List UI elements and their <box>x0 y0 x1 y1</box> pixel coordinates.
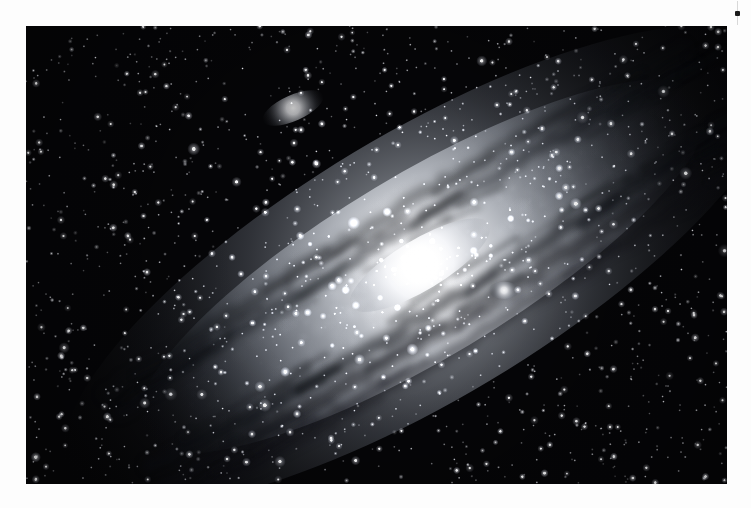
photo-viewer-page <box>0 0 751 508</box>
cursor-knob <box>735 11 740 16</box>
cursor-stem <box>737 1 738 25</box>
cursor-artifact <box>737 1 739 25</box>
andromeda-galaxy-photo[interactable] <box>26 26 727 484</box>
galaxy-image-canvas <box>26 26 727 484</box>
